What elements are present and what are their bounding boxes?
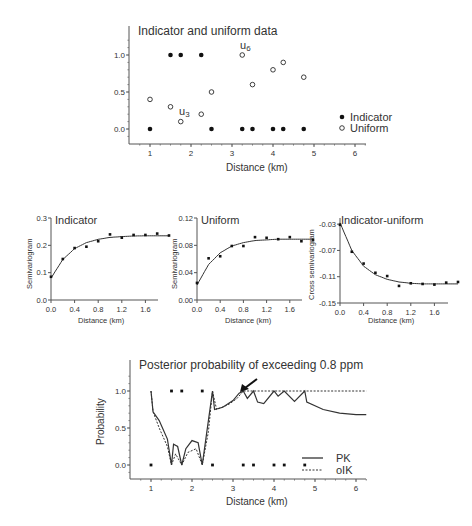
svg-text:1.6: 1.6 <box>429 308 439 317</box>
svg-text:0.3: 0.3 <box>37 214 47 223</box>
bottom-plot <box>150 390 367 467</box>
ind-y-label: Semivariogram <box>25 239 34 289</box>
uni-y-label: Semivariogram <box>170 239 179 289</box>
svg-text:0.2: 0.2 <box>37 241 47 250</box>
legend-uniform-marker <box>340 126 345 131</box>
svg-text:-0.11: -0.11 <box>319 272 336 281</box>
svg-text:5: 5 <box>313 484 318 493</box>
svg-text:1: 1 <box>149 484 154 493</box>
ind-plot <box>50 232 171 278</box>
svg-text:0.8: 0.8 <box>93 305 103 314</box>
indicator-semivariogram-chart: 0.00.40.81.21.60.00.10.20.3 Indicator Di… <box>25 214 170 326</box>
svg-text:0.12: 0.12 <box>178 214 193 223</box>
top-title: Indicator and uniform data <box>138 24 278 38</box>
svg-text:3: 3 <box>230 149 235 158</box>
bottom-x-label: Distance (km) <box>226 496 288 507</box>
posterior-probability-chart: 1234560.00.51.0 Posterior probability of… <box>95 358 366 507</box>
svg-text:0.0: 0.0 <box>115 461 127 470</box>
svg-text:1.0: 1.0 <box>115 387 127 396</box>
uni-title: Uniform <box>201 214 240 226</box>
svg-text:1.0: 1.0 <box>114 51 126 60</box>
top-points <box>148 53 306 132</box>
cross-title: Indicator-uniform <box>341 214 424 226</box>
svg-text:1.6: 1.6 <box>285 305 295 314</box>
svg-text:0.00: 0.00 <box>178 296 193 305</box>
svg-text:6: 6 <box>354 484 359 493</box>
uni-plot <box>196 236 315 285</box>
cross-semivariogram-chart: 0.00.40.81.21.6-0.03-0.07-0.11-0.15 Indi… <box>307 214 459 325</box>
svg-text:0.0: 0.0 <box>114 125 126 134</box>
u3-label: u3 <box>179 105 190 119</box>
svg-text:1: 1 <box>148 149 153 158</box>
svg-text:-0.07: -0.07 <box>319 246 336 255</box>
legend-indicator-marker <box>340 115 345 120</box>
figure-canvas: 1234560.00.51.0 Indicator and uniform da… <box>0 0 472 526</box>
svg-text:4: 4 <box>271 149 276 158</box>
svg-text:0.5: 0.5 <box>115 424 127 433</box>
svg-text:0.1: 0.1 <box>37 268 47 277</box>
legend-oik-label: oIK <box>336 464 353 476</box>
ind-title: Indicator <box>55 214 98 226</box>
bottom-title: Posterior probability of exceeding 0.8 p… <box>139 358 363 372</box>
bottom-y-label: Probability <box>95 398 106 445</box>
svg-text:0.4: 0.4 <box>215 305 225 314</box>
svg-text:3: 3 <box>231 484 236 493</box>
top-chart: 1234560.00.51.0 Indicator and uniform da… <box>114 24 393 173</box>
svg-text:5: 5 <box>312 149 317 158</box>
u6-label: u6 <box>240 39 251 53</box>
top-x-label: Distance (km) <box>226 162 288 173</box>
svg-text:0.0: 0.0 <box>46 305 56 314</box>
cross-y-label: Cross semivariogram <box>307 229 316 300</box>
svg-text:0.8: 0.8 <box>238 305 248 314</box>
svg-text:4: 4 <box>272 484 277 493</box>
svg-text:1.6: 1.6 <box>140 305 150 314</box>
svg-text:0.5: 0.5 <box>114 88 126 97</box>
svg-text:2: 2 <box>190 484 195 493</box>
cross-plot <box>339 223 460 287</box>
svg-text:6: 6 <box>353 149 358 158</box>
svg-text:0.08: 0.08 <box>178 241 193 250</box>
svg-text:1.2: 1.2 <box>261 305 271 314</box>
svg-text:0.4: 0.4 <box>69 305 79 314</box>
legend-uniform-label: Uniform <box>350 122 389 134</box>
svg-text:1.2: 1.2 <box>117 305 127 314</box>
svg-text:-0.03: -0.03 <box>319 220 336 229</box>
uni-x-label: Distance (km) <box>225 316 272 325</box>
svg-text:0.04: 0.04 <box>178 268 193 277</box>
ind-x-label: Distance (km) <box>78 316 125 325</box>
svg-text:0.0: 0.0 <box>335 308 345 317</box>
cross-x-label: Distance (km) <box>368 316 415 325</box>
svg-text:0.0: 0.0 <box>37 296 47 305</box>
uniform-semivariogram-chart: 0.00.40.81.21.60.000.040.080.12 Uniform … <box>170 214 314 326</box>
uni-ticks: 0.00.40.81.21.60.000.040.080.12 <box>178 214 295 314</box>
bottom-ticks: 1234560.00.51.0 <box>115 376 366 493</box>
svg-text:0.0: 0.0 <box>192 305 202 314</box>
arrow-annotation <box>240 379 257 392</box>
svg-text:-0.15: -0.15 <box>319 299 336 308</box>
ind-ticks: 0.00.40.81.21.60.00.10.20.3 <box>37 214 151 314</box>
legend-pk-label: PK <box>336 452 351 464</box>
cross-ticks: 0.00.40.81.21.6-0.03-0.07-0.11-0.15 <box>319 220 440 317</box>
svg-text:2: 2 <box>189 149 194 158</box>
